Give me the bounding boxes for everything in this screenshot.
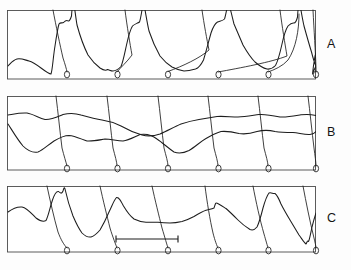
figure-container: A B bbox=[0, 0, 351, 270]
panel-a-label: A bbox=[327, 37, 336, 51]
panel-b-label: B bbox=[327, 125, 336, 139]
panel-b: B bbox=[8, 96, 336, 172]
panel-a: A bbox=[8, 2, 337, 79]
trace-figure: A B bbox=[0, 0, 351, 270]
panel-c-label: C bbox=[327, 211, 336, 225]
panel-c: C bbox=[8, 186, 337, 254]
